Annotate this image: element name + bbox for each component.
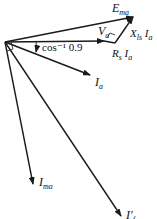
phasor-diagram: Ema Va Xls Ia Rs Ia cos⁻¹ 0.9 Ia Ima I′f xyxy=(0,0,157,219)
rs-ia-vector xyxy=(104,41,115,43)
label-e-ma: Ema xyxy=(112,2,129,17)
label-v-a: Va xyxy=(98,25,109,40)
label-i-f: I′f xyxy=(126,209,135,219)
label-i-a: Ia xyxy=(95,76,103,91)
e-ma-vector xyxy=(5,17,133,42)
angle-arc xyxy=(36,42,37,52)
label-i-ma: Ima xyxy=(39,176,53,191)
label-rs-ia: Rs Ia xyxy=(112,48,132,62)
label-xls-ia: Xls Ia xyxy=(130,28,153,42)
label-angle: cos⁻¹ 0.9 xyxy=(42,42,82,53)
